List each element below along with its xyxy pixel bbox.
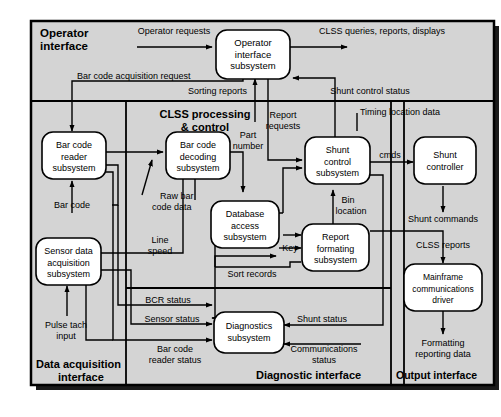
box-label: Report xyxy=(322,232,350,242)
box-diagnostics-subsystem[interactable]: Diagnostics subsystem xyxy=(214,312,284,353)
box-label: Mainframe xyxy=(423,272,463,282)
region-label-diagnostic: Diagnostic interface xyxy=(256,369,361,381)
label-bcr-status: BCR status xyxy=(145,295,191,305)
box-label: Diagnostics xyxy=(226,321,273,331)
label-key: Key xyxy=(282,243,298,253)
label-line-speed-2: speed xyxy=(148,246,173,256)
box-label: Shunt xyxy=(433,150,457,160)
box-label: reader xyxy=(61,152,87,162)
box-label: subsystem xyxy=(52,163,95,173)
box-label: driver xyxy=(432,295,453,305)
label-formatting-reporting-data-1: Formatting xyxy=(421,338,464,348)
label-raw-bar-code-data-1: Raw bar xyxy=(160,191,194,201)
label-shunt-status: Shunt status xyxy=(297,314,348,324)
box-label: communications xyxy=(412,284,473,294)
label-clss-queries: CLSS queries, reports, displays xyxy=(319,26,446,36)
label-sort-records: Sort records xyxy=(227,269,277,279)
label-report-requests-2: requests xyxy=(266,121,301,131)
label-cmds: cmds xyxy=(379,150,401,160)
label-operator-requests: Operator requests xyxy=(138,26,211,36)
label-line-speed-1: Line xyxy=(151,235,168,245)
box-label: subsystem xyxy=(227,333,270,343)
label-bar-code: Bar code xyxy=(54,200,90,210)
label-communications-status-2: status xyxy=(312,355,337,365)
label-sensor-status: Sensor status xyxy=(144,314,200,324)
box-label: subsystem xyxy=(316,168,359,178)
diagram-canvas: Operator interface subsystem Bar code re… xyxy=(0,0,501,417)
region-label-dataacq-2: interface xyxy=(58,371,104,383)
label-shunt-commands: Shunt commands xyxy=(408,214,479,224)
box-label: subsystem xyxy=(47,269,90,279)
box-shunt-controller[interactable]: Shunt controller xyxy=(414,137,476,184)
box-bar-code-decoding-subsystem[interactable]: Bar code decoding subsystem xyxy=(166,132,230,179)
region-label-operator-2: interface xyxy=(40,40,88,52)
region-label-output: Output interface xyxy=(396,369,477,381)
label-pulse-tach-input-2: input xyxy=(56,331,76,341)
region-label-clss-2: & control xyxy=(181,121,229,133)
box-mainframe-communications-driver[interactable]: Mainframe communications driver xyxy=(404,264,482,311)
box-label: access xyxy=(231,221,260,231)
box-operator-interface-subsystem[interactable]: Operator interface subsystem xyxy=(216,30,290,79)
label-clss-reports: CLSS reports xyxy=(416,240,471,250)
label-bin-location-2: location xyxy=(335,206,366,216)
box-label: subsystem xyxy=(176,163,219,173)
box-label: controller xyxy=(426,162,463,172)
label-pulse-tach-input-1: Pulse tach xyxy=(45,320,87,330)
box-bar-code-reader-subsystem[interactable]: Bar code reader subsystem xyxy=(42,132,106,179)
label-communications-status-1: Communications xyxy=(290,344,358,354)
box-label: Shunt xyxy=(326,145,350,155)
label-report-requests-1: Report xyxy=(269,110,297,120)
box-database-access-subsystem[interactable]: Database access subsystem xyxy=(211,201,279,248)
box-label: subsystem xyxy=(314,255,357,265)
box-label: subsystem xyxy=(223,232,266,242)
label-timing-location-data: Timing location data xyxy=(360,107,440,117)
label-part-number-1: Part xyxy=(240,130,257,140)
box-label: formating xyxy=(317,244,355,254)
box-label: Bar code xyxy=(56,140,92,150)
region-label-operator: Operator xyxy=(40,27,89,39)
box-sensor-data-acquisition-subsystem[interactable]: Sensor data acquisition subsystem xyxy=(36,238,101,285)
clss-architecture-diagram: Operator interface subsystem Bar code re… xyxy=(0,0,501,417)
box-label: Operator xyxy=(234,37,272,48)
box-label: Bar code xyxy=(180,140,216,150)
label-sorting-reports: Sorting reports xyxy=(188,86,248,96)
box-label: subsystem xyxy=(230,60,275,71)
box-label: Database xyxy=(226,209,265,219)
box-label: decoding xyxy=(180,152,217,162)
label-raw-bar-code-data-2: code data xyxy=(152,202,192,212)
box-report-formating-subsystem[interactable]: Report formating subsystem xyxy=(302,224,369,271)
label-formatting-reporting-data-2: reporting data xyxy=(415,349,471,359)
label-shunt-control-status: Shunt control status xyxy=(330,86,410,96)
box-label: control xyxy=(324,157,351,167)
region-label-clss: CLSS processing xyxy=(159,108,250,120)
box-shunt-control-subsystem[interactable]: Shunt control subsystem xyxy=(305,137,370,184)
region-label-dataacq: Data acquisition xyxy=(36,358,121,370)
label-bar-code-reader-status-2: reader status xyxy=(149,355,202,365)
label-bin-location-1: Bin xyxy=(341,195,354,205)
box-label: interface xyxy=(235,49,271,60)
label-bar-code-reader-status-1: Bar code xyxy=(157,344,193,354)
box-label: acquisition xyxy=(47,258,90,268)
box-label: Sensor data xyxy=(44,246,93,256)
label-part-number-2: number xyxy=(233,141,264,151)
label-bar-code-acquisition-request: Bar code acquisition request xyxy=(77,71,191,81)
